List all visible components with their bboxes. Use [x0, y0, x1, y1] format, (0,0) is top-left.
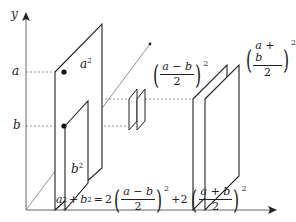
half-sum-squared-label: ( a + b 2 ) 2	[244, 40, 296, 79]
b-squared-base: b	[71, 162, 79, 176]
left-paren: (	[153, 62, 159, 88]
right-paren: )	[195, 62, 201, 88]
tick-label-a: a	[12, 65, 19, 77]
eq-half-diff-squared: ( a − b 2 ) 2	[112, 186, 169, 213]
a-squared-exp: 2	[87, 57, 91, 65]
eq-plus: +	[69, 193, 78, 206]
fraction-denominator: 2	[135, 200, 142, 213]
eq-a-exp: 2	[63, 196, 67, 204]
eq-coef-1: 2	[105, 193, 112, 206]
exponent: 2	[203, 59, 208, 68]
left-paren: (	[114, 187, 120, 213]
eq-half-sum-squared: ( a + b 2 ) 2	[189, 186, 246, 213]
exponent: 2	[164, 184, 169, 193]
eq-plus-2: +2	[171, 193, 187, 206]
fraction: a + b 2	[253, 40, 282, 79]
half-diff-panel-1	[129, 89, 137, 130]
fraction-numerator: a − b	[160, 61, 194, 75]
left-paren: (	[191, 187, 197, 213]
half-diff-squared-label: ( a − b 2 ) 2	[151, 61, 208, 88]
right-paren: )	[156, 187, 162, 213]
fraction-numerator: a + b	[253, 40, 282, 66]
y-axis	[22, 12, 30, 210]
depth-axis-end-dot	[149, 43, 152, 46]
eq-equals: =	[94, 193, 103, 206]
y-axis-label: y	[11, 8, 18, 20]
right-paren: )	[233, 187, 239, 213]
b-squared-label: b2	[71, 163, 83, 175]
fraction: a − b 2	[121, 186, 155, 213]
half-diff-panel-2	[137, 89, 145, 130]
fraction-denominator: 2	[264, 66, 271, 79]
eq-b: b	[80, 193, 87, 206]
point-b	[61, 123, 66, 128]
right-paren: )	[283, 47, 289, 73]
half-diff-panels	[129, 89, 145, 130]
eq-b-exp: 2	[87, 196, 91, 204]
exponent: 2	[242, 184, 247, 193]
exponent: 2	[291, 38, 296, 47]
a-squared-label: a2	[80, 58, 92, 70]
point-a	[61, 69, 66, 74]
identity-equation: a2 + b2 = 2 ( a − b 2 ) 2 +2 ( a + b 2 )…	[56, 186, 247, 213]
fraction-numerator: a − b	[121, 186, 155, 200]
fraction: a − b 2	[160, 61, 194, 88]
fraction: a + b 2	[199, 186, 233, 213]
fraction-numerator: a + b	[199, 186, 233, 200]
fraction-denominator: 2	[212, 200, 219, 213]
tick-label-b: b	[13, 119, 21, 131]
fraction-denominator: 2	[174, 75, 181, 88]
left-paren: (	[246, 47, 252, 73]
diagram-canvas: y a b a2 b2 ( a − b 2 ) 2 ( a + b 2 ) 2 …	[0, 0, 296, 222]
b-squared-exp: 2	[79, 162, 83, 170]
